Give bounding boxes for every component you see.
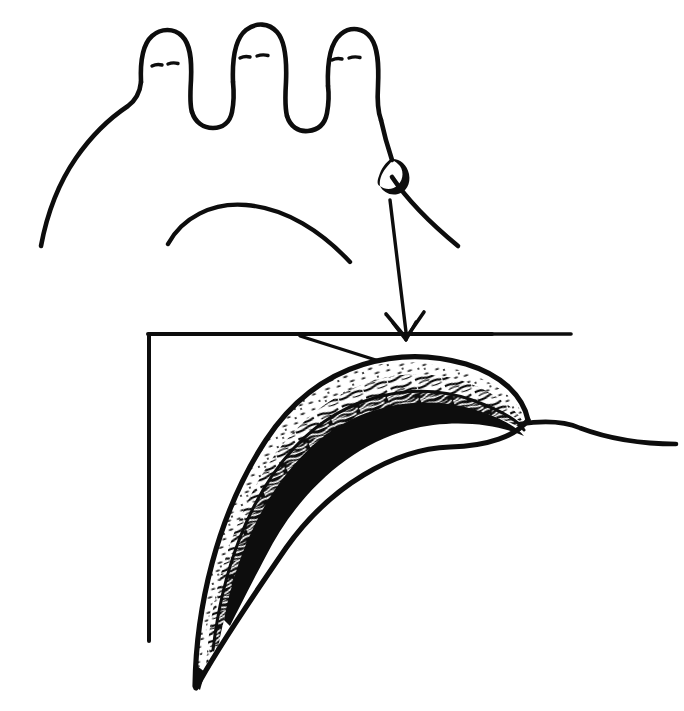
figure-canvas <box>0 0 684 711</box>
figure-root: Semilunar valve leaflet cross-section wi… <box>0 0 684 711</box>
cusp-right-dash-a <box>332 58 342 60</box>
cusp-left-dash-a <box>152 64 162 66</box>
canvas-background <box>0 0 684 711</box>
cusp-right-dash-b <box>349 57 360 58</box>
cusp-middle-dash-a <box>240 56 250 58</box>
cusp-middle-dash-b <box>257 55 268 56</box>
cusp-left-dash-b <box>168 63 178 64</box>
